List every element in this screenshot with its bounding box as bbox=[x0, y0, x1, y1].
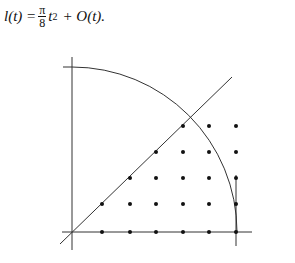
lattice-figure bbox=[0, 0, 295, 263]
quarter-circle-arc bbox=[72, 67, 237, 232]
lattice-point bbox=[207, 176, 211, 180]
lattice-point bbox=[234, 150, 238, 154]
lattice-point bbox=[154, 150, 158, 154]
lattice-point bbox=[234, 230, 238, 234]
lattice-point bbox=[207, 230, 211, 234]
lattice-point bbox=[181, 202, 185, 206]
lattice-point bbox=[100, 202, 104, 206]
lattice-point bbox=[181, 124, 185, 128]
lattice-point bbox=[128, 176, 132, 180]
lattice-point bbox=[234, 124, 238, 128]
lattice-point bbox=[234, 202, 238, 206]
lattice-point bbox=[207, 202, 211, 206]
lattice-point bbox=[154, 202, 158, 206]
lattice-point bbox=[181, 230, 185, 234]
lattice-point bbox=[181, 150, 185, 154]
lattice-point bbox=[154, 230, 158, 234]
lattice-point bbox=[154, 176, 158, 180]
lattice-point bbox=[128, 230, 132, 234]
lattice-point bbox=[207, 124, 211, 128]
lattice-point bbox=[100, 230, 104, 234]
lattice-point bbox=[207, 150, 211, 154]
diagonal-line bbox=[60, 77, 232, 244]
lattice-point bbox=[234, 176, 238, 180]
lattice-point bbox=[181, 176, 185, 180]
lattice-point bbox=[128, 202, 132, 206]
